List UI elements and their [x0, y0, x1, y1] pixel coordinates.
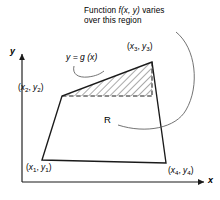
vertex-label-4: (x4, y4) [168, 166, 194, 176]
y-axis-label: y [10, 46, 15, 57]
curve-label-leader [74, 66, 104, 77]
curve-equation-label: y = g (x) [66, 52, 97, 62]
function-annotation-line-2: over this region [84, 16, 165, 26]
x-axis-label: x [208, 175, 213, 186]
vertex-label-1: (x1, y1) [26, 163, 52, 173]
vertex-label-2: (x2, y2) [18, 83, 44, 93]
function-annotation: Function f(x, y) varies over this region [84, 6, 165, 25]
function-annotation-line-1: Function f(x, y) varies [84, 6, 165, 16]
vertex-label-3: (x3, y3) [127, 42, 153, 52]
annotation-function-args: (x, y) [121, 6, 140, 15]
annotation-suffix: varies [142, 6, 164, 15]
annotation-prefix: Function [84, 6, 116, 15]
figure-region-r: Function f(x, y) varies over this region… [0, 0, 220, 200]
region-label: R [104, 114, 111, 125]
